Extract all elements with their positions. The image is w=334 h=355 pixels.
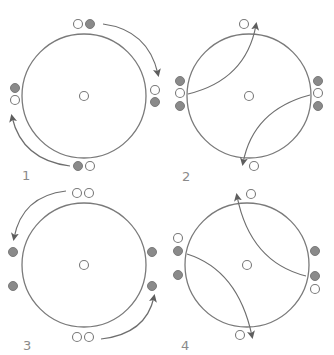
panel-2-bottom-white-dot (250, 162, 259, 171)
panel-3: 3 (9, 189, 157, 354)
panel-3-arrow-top-left (14, 191, 66, 238)
panel-1-center-marker (80, 92, 89, 101)
panel-4-left-gray-dot-lower (174, 271, 183, 280)
panel-2-right-gray-dot-upper (314, 77, 323, 86)
panel-3-right-gray-dot-upper (148, 248, 157, 257)
panel-4-left-gray-dot-upper (174, 247, 183, 256)
panel-2: 2 (176, 20, 323, 185)
panel-2-right-gray-dot-lower (314, 102, 323, 111)
panel-1: 1 (11, 20, 160, 184)
panel-3-right-gray-dot-lower (148, 282, 157, 291)
panel-1-right-white-dot (151, 86, 160, 95)
panel-1-right-gray-dot (151, 98, 160, 107)
panel-1-top-white-dot (74, 20, 83, 29)
panel-2-arrow-right-to-bottom (243, 95, 310, 163)
panel-4: 4 (174, 190, 320, 354)
panel-2-top-white-dot (240, 20, 249, 29)
panel-4-right-gray-dot-upper (311, 247, 320, 256)
panel-1-left-gray-dot (11, 84, 20, 93)
panel-4-right-white-dot (311, 285, 320, 294)
panel-1-arrow-top-right (103, 24, 158, 74)
panel-1-top-gray-dot (86, 20, 95, 29)
panel-4-right-gray-dot-lower (311, 272, 320, 281)
panel-3-top-white-dot-right (85, 189, 94, 198)
panel-4-label: 4 (181, 338, 189, 353)
panel-1-label: 1 (22, 168, 30, 183)
panel-1-left-white-dot (11, 96, 20, 105)
panel-4-center-marker (243, 261, 252, 270)
panel-2-label: 2 (182, 169, 190, 184)
panel-3-bottom-white-dot-left (73, 333, 82, 342)
panel-4-top-white-dot (247, 190, 256, 199)
panel-2-left-gray-dot-upper (176, 77, 185, 86)
panel-2-left-gray-dot-lower (176, 102, 185, 111)
panel-1-bottom-white-dot (86, 162, 95, 171)
panel-3-label: 3 (23, 338, 31, 353)
panel-3-left-gray-dot-upper (9, 248, 18, 257)
panel-2-left-white-dot (176, 89, 185, 98)
panel-4-bottom-white-dot (236, 331, 245, 340)
panel-3-bottom-white-dot-right (85, 333, 94, 342)
panel-1-bottom-gray-dot (74, 162, 83, 171)
panel-3-left-gray-dot-lower (9, 282, 18, 291)
panel-3-arrow-bottom-right (101, 297, 154, 339)
panel-3-center-marker (80, 261, 89, 270)
diagram-canvas: 1 2 3 (0, 0, 334, 355)
panel-4-left-white-dot (174, 234, 183, 243)
panel-3-top-white-dot-left (73, 189, 82, 198)
panel-2-right-white-dot (314, 89, 323, 98)
panel-2-center-marker (245, 92, 254, 101)
